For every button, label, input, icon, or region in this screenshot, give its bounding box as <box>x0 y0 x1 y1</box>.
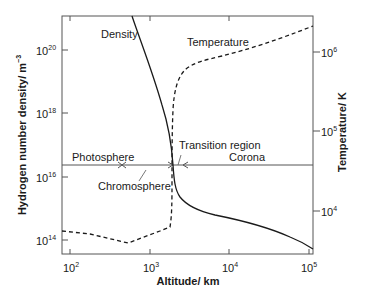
svg-text:105: 105 <box>301 261 317 274</box>
svg-text:105: 105 <box>321 125 337 138</box>
label-corona: Corona <box>229 151 266 163</box>
label-photosphere: Photosphere <box>72 151 134 163</box>
label-density: Density <box>101 28 138 40</box>
plot-frame <box>62 16 313 254</box>
y2-tick-labels: 106 105 104 <box>321 46 337 218</box>
y2-axis-title: Temperature/ K <box>336 92 348 172</box>
label-temperature: Temperature <box>187 36 249 48</box>
svg-text:1016: 1016 <box>36 171 56 184</box>
y-axis-title: Hydrogen number density/ m−3 <box>15 55 28 215</box>
label-transition-region: Transition region <box>179 139 261 151</box>
y2-ticks <box>313 52 320 211</box>
svg-text:106: 106 <box>321 46 337 59</box>
svg-text:102: 102 <box>63 261 79 274</box>
svg-text:1014: 1014 <box>36 234 56 247</box>
x-axis-title: Altitude/ km <box>157 275 220 287</box>
transition-leader <box>178 155 181 165</box>
label-chromosphere: Chromosphere <box>98 180 171 192</box>
density-curve <box>132 16 313 249</box>
svg-text:104: 104 <box>222 261 238 274</box>
svg-text:1018: 1018 <box>36 107 56 120</box>
temperature-curve <box>62 26 313 243</box>
y-ticks <box>62 50 68 240</box>
solar-atmosphere-chart: 102 103 104 105 1020 1018 1016 1014 106 … <box>0 0 366 300</box>
svg-text:103: 103 <box>143 261 159 274</box>
svg-text:1020: 1020 <box>36 44 56 57</box>
x-tick-labels: 102 103 104 105 <box>63 261 317 274</box>
y-tick-labels: 1020 1018 1016 1014 <box>36 44 56 247</box>
svg-text:104: 104 <box>321 205 337 218</box>
x-ticks <box>70 16 309 254</box>
